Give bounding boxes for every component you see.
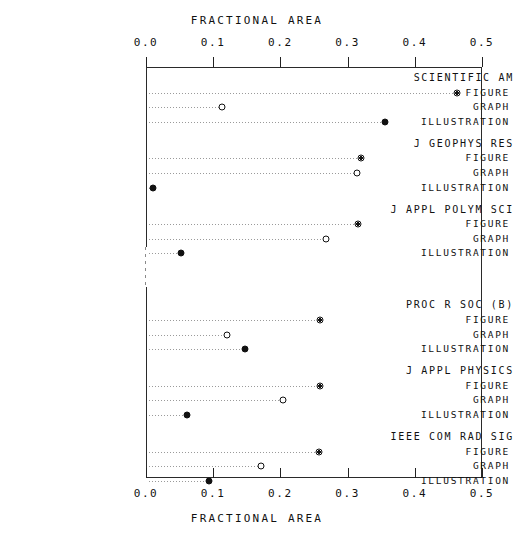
x-tick-label-bottom: 0.2 [268,487,293,500]
x-tick-top [482,57,483,67]
journal-label: J APPL PHYSICS [374,365,514,376]
journal-label: PROC R SOC (B) [374,299,514,310]
x-tick-top [146,57,147,67]
chart-title-bottom: FRACTIONAL AREA [0,512,514,525]
data-point-figure [454,89,461,96]
data-point-graph [323,235,330,242]
series-label-illustration: ILLUSTRATION [374,343,514,354]
leader-line [148,415,185,416]
series-label-illustration: ILLUSTRATION [374,116,514,127]
leader-line [148,466,259,467]
leader-line [148,481,207,482]
data-point-graph [257,463,264,470]
series-label-figure: FIGURE [374,446,514,457]
x-tick-label-bottom: 0.5 [470,487,495,500]
series-label-graph: GRAPH [374,233,514,244]
data-point-graph [354,170,361,177]
data-point-illustration [149,184,156,191]
journal-label: J GEOPHYS RES [374,138,514,149]
data-point-illustration [177,250,184,257]
leader-line [148,93,455,94]
x-tick-bottom [415,468,416,478]
x-tick-bottom [280,468,281,478]
x-tick-label-bottom: 0.0 [134,487,159,500]
x-tick-label-bottom: 0.4 [402,487,427,500]
chart-title-top: FRACTIONAL AREA [0,14,514,27]
journal-label: SCIENTIFIC AM [374,72,514,83]
data-point-graph [224,331,231,338]
x-tick-label-top: 0.2 [268,36,293,49]
data-point-illustration [382,118,389,125]
data-point-illustration [206,477,213,484]
leader-line [148,239,324,240]
data-point-illustration [241,346,248,353]
leader-line [148,224,356,225]
leader-line [148,386,318,387]
series-label-graph: GRAPH [374,460,514,471]
leader-line [148,122,383,123]
data-point-graph [218,104,225,111]
leader-line [148,173,355,174]
leader-line [148,107,220,108]
series-label-illustration: ILLUSTRATION [374,182,514,193]
x-tick-label-top: 0.4 [402,36,427,49]
axis-break-dashes [145,247,146,287]
data-point-figure [317,382,324,389]
x-tick-top [348,57,349,67]
journal-label: IEEE COM RAD SIG [374,431,514,442]
x-tick-top [280,57,281,67]
x-tick-label-top: 0.5 [470,36,495,49]
leader-line [148,349,243,350]
x-tick-bottom [348,468,349,478]
leader-line [148,320,318,321]
x-tick-bottom [482,468,483,478]
leader-line [148,253,179,254]
data-point-figure [317,317,324,324]
data-point-illustration [183,412,190,419]
leader-line [148,158,359,159]
series-label-figure: FIGURE [374,314,514,325]
journal-label: J APPL POLYM SCI [374,204,514,215]
x-tick-bottom [146,468,147,478]
leader-line [148,400,281,401]
leader-line [148,452,317,453]
series-label-graph: GRAPH [374,394,514,405]
series-label-figure: FIGURE [374,380,514,391]
x-tick-label-top: 0.0 [134,36,159,49]
x-tick-top [415,57,416,67]
data-point-figure [358,155,365,162]
data-point-figure [355,221,362,228]
leader-line [148,335,225,336]
x-tick-top [213,57,214,67]
x-tick-label-top: 0.3 [335,36,360,49]
series-label-figure: FIGURE [374,152,514,163]
series-label-graph: GRAPH [374,167,514,178]
data-point-graph [280,397,287,404]
fractional-area-chart: FRACTIONAL AREA 0.00.10.20.30.40.5 SCIEN… [0,0,514,539]
x-tick-label-bottom: 0.1 [201,487,226,500]
series-label-graph: GRAPH [374,329,514,340]
series-label-illustration: ILLUSTRATION [374,475,514,486]
series-label-figure: FIGURE [374,218,514,229]
x-tick-label-top: 0.1 [201,36,226,49]
series-label-illustration: ILLUSTRATION [374,409,514,420]
series-label-graph: GRAPH [374,101,514,112]
x-tick-label-bottom: 0.3 [335,487,360,500]
x-tick-bottom [213,468,214,478]
data-point-figure [315,448,322,455]
series-label-illustration: ILLUSTRATION [374,247,514,258]
